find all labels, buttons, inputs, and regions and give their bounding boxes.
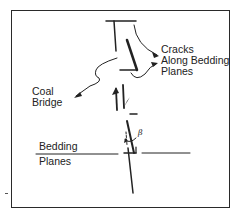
beta-angle-label: β [138,128,143,137]
coal-bridge-label: Coal Bridge [32,86,62,108]
angle-ref-left [126,132,127,145]
diagram-canvas: Cracks Along Bedding Planes Coal Bridge … [0,0,239,216]
shear-arrowhead-down [124,97,130,107]
shear-arrowhead-up [112,87,119,95]
cracks-along-bedding-planes-label: Cracks Along Bedding Planes [161,44,229,77]
cracks-label-line3: Planes [161,66,229,77]
cracks-arrowhead-upper [152,52,159,58]
bedding-label-line1: Bedding [39,141,78,152]
coal-bridge-arrow [76,58,117,96]
bedding-planes-label: Bedding Planes [39,141,78,167]
shear-line-right [123,85,124,108]
diagram-drawing [0,0,239,216]
lower-vertical-fracture [128,148,133,193]
upper-fracture-left-stem [114,21,116,51]
coal-label-line2: Bridge [32,97,62,108]
upper-slanted-crack [127,40,137,70]
cracks-arrow-upper [134,25,157,55]
bedding-label-line2: Planes [39,156,78,167]
beta-arrowhead [124,138,128,143]
